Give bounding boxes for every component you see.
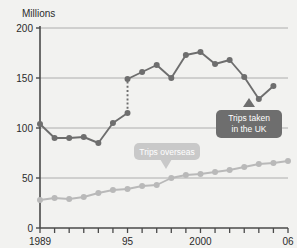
data-point-marker (227, 57, 233, 63)
data-point-marker (168, 75, 174, 81)
data-point-marker (125, 110, 131, 116)
x-tick-label: 2000 (189, 236, 212, 247)
trips-uk-callout-label-line1: Trips taken (228, 113, 270, 123)
trips-uk-callout-label-line2: in the UK (232, 124, 267, 134)
data-point-marker (285, 158, 291, 164)
data-point-marker (212, 169, 218, 175)
data-point-marker (154, 62, 160, 68)
data-point-marker (197, 171, 203, 177)
x-tick-label: 06 (282, 236, 294, 247)
data-point-marker (154, 182, 160, 188)
data-point-marker (95, 190, 101, 196)
data-point-marker (95, 140, 101, 146)
trips-overseas-callout-label: Trips overseas (139, 147, 194, 157)
data-point-marker (66, 196, 72, 202)
y-tick-label: 150 (16, 73, 33, 84)
data-point-marker (52, 195, 58, 201)
y-tick-label: 100 (16, 123, 33, 134)
data-point-marker (139, 69, 145, 75)
x-tick-label: 1989 (29, 236, 52, 247)
y-axis-title: Millions (22, 8, 55, 19)
y-tick-label: 0 (27, 223, 33, 234)
data-point-marker (183, 52, 189, 58)
data-point-marker (125, 186, 131, 192)
y-tick-label: 50 (22, 173, 34, 184)
data-point-marker (168, 175, 174, 181)
data-point-marker (256, 96, 262, 102)
data-point-marker (212, 61, 218, 67)
data-point-marker (227, 167, 233, 173)
data-point-marker (270, 83, 276, 89)
data-point-marker (110, 120, 116, 126)
data-point-marker (256, 161, 262, 167)
data-point-marker (241, 74, 247, 80)
data-point-marker (66, 135, 72, 141)
data-point-marker (241, 164, 247, 170)
data-point-marker (270, 160, 276, 166)
x-tick-label: 95 (122, 236, 134, 247)
data-point-marker (125, 76, 131, 82)
data-point-marker (139, 183, 145, 189)
data-point-marker (110, 187, 116, 193)
chart-container: Millions 050100150200 198995200006 Trips… (0, 0, 297, 248)
data-point-marker (81, 194, 87, 200)
data-point-marker (183, 172, 189, 178)
y-tick-label: 200 (16, 23, 33, 34)
data-point-marker (37, 121, 43, 127)
data-point-marker (52, 135, 58, 141)
data-point-marker (37, 197, 43, 203)
line-chart: Millions 050100150200 198995200006 Trips… (0, 0, 297, 248)
data-point-marker (81, 134, 87, 140)
data-point-marker (197, 49, 203, 55)
